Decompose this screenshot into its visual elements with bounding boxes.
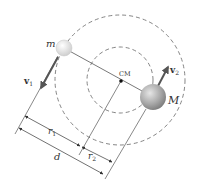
- label-v1: v1: [23, 76, 33, 87]
- r2-dimension-arrow: [82, 147, 112, 162]
- v2-velocity-arrow: [158, 67, 168, 86]
- large-mass-M: [140, 84, 166, 110]
- label-d: d: [54, 151, 60, 162]
- label-M: M: [167, 94, 180, 107]
- label-cm: CM: [119, 70, 131, 78]
- label-r2: r2: [88, 151, 96, 162]
- label-v2: v2: [169, 65, 179, 76]
- extension-line-cm: [79, 81, 121, 155]
- label-r1: r1: [48, 126, 56, 137]
- mass-connecting-line: [64, 48, 153, 97]
- small-mass-m: [56, 40, 72, 56]
- center-of-mass-dot: [119, 79, 123, 83]
- label-m: m: [46, 38, 55, 49]
- binary-orbit-diagram: m M CM v1 v2 r1 r2 d: [0, 0, 198, 187]
- extension-line-M: [105, 109, 146, 179]
